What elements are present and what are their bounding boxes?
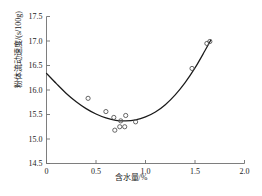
data-point-marker: [190, 66, 194, 70]
y-axis-tick-label: 17.5: [29, 12, 43, 21]
y-axis-tick-label: 17.0: [29, 37, 43, 46]
chart-plot-area: 14.515.015.516.016.517.017.500.51.01.52.…: [0, 0, 262, 196]
fit-curve-line: [47, 40, 211, 121]
data-point-marker: [118, 125, 122, 129]
data-point-marker: [112, 115, 116, 119]
y-axis-tick-label: 15.5: [29, 110, 43, 119]
y-axis-tick-label: 16.0: [29, 86, 43, 95]
chart-figure: 粉体流动速度/(s/100g) 14.515.015.516.016.517.0…: [0, 0, 262, 196]
y-axis-tick-label: 16.5: [29, 61, 43, 70]
y-axis-tick-label: 15.0: [29, 135, 43, 144]
y-axis-tick-label: 14.5: [29, 159, 43, 168]
data-point-marker: [124, 113, 128, 117]
x-axis-title: 含水量/%: [0, 171, 262, 182]
data-point-marker: [113, 128, 117, 132]
data-point-marker: [86, 96, 90, 100]
data-point-marker: [123, 125, 127, 129]
data-point-marker: [104, 109, 108, 113]
